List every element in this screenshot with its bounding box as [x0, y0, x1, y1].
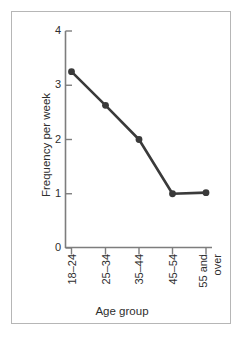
x-tick-label-3: 45–54 — [166, 254, 180, 310]
x-tick-label-2: 35–44 — [132, 254, 146, 310]
x-tick-label-0: 18–24 — [65, 254, 79, 310]
x-tick-label-1: 25–34 — [99, 254, 113, 310]
data-point-2 — [136, 136, 143, 143]
data-point-4 — [203, 189, 210, 196]
x-tick-line-1: 45–54 — [167, 254, 179, 285]
data-point-0 — [68, 68, 75, 75]
y-tick-label-4: 4 — [45, 25, 61, 36]
data-point-1 — [102, 102, 109, 109]
y-axis-title: Frequency per week — [40, 70, 52, 220]
x-axis-title: Age group — [0, 305, 244, 318]
x-tick-line-1: 18–24 — [66, 254, 78, 285]
data-series-line — [72, 72, 207, 194]
figure-canvas: 4 3 2 1 0 Frequency per week 18–24 25–34… — [0, 0, 244, 343]
x-tick-line-1: 25–34 — [100, 254, 112, 285]
x-tick-line-2: over — [211, 254, 224, 275]
x-tick-line-1: 55 and — [197, 254, 209, 288]
x-tick-label-4: 55 and over — [196, 254, 224, 310]
y-axis-ticks — [66, 31, 73, 248]
data-point-3 — [169, 190, 176, 197]
x-tick-line-1: 35–44 — [133, 254, 145, 285]
y-tick-label-0: 0 — [45, 242, 61, 253]
